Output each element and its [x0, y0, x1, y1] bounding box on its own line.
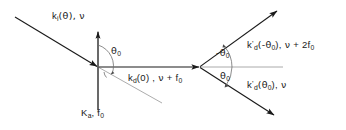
lower-angle-arg: (θ	[258, 79, 268, 90]
first-order-ray-label: kd(0) , ν + f0	[128, 73, 182, 85]
angle-neg-theta-subscript-b: 0	[226, 52, 230, 59]
incident-ray-arrow	[15, 17, 97, 66]
lower-angle-arg-close: ),	[272, 79, 281, 90]
angle-arc-theta0-a-tip	[111, 71, 115, 74]
acoustic-frequency: , f	[91, 107, 100, 118]
acoustic-vector-label: Ka, f0	[81, 108, 104, 120]
acoustic-frequency-subscript: 0	[100, 112, 104, 119]
angle-neg-theta-symbol-b: -θ	[216, 47, 226, 58]
acousto-optic-diffraction-figure: ki(θ), ν Ka, f0 kd(0) , ν + f0 k'd(-θ0),…	[0, 0, 346, 130]
angle-arc-small-a	[104, 72, 107, 78]
angle-label-theta0-b: θ0	[220, 71, 230, 83]
upper-frequency-shift-subscript: 0	[311, 44, 315, 51]
upper-diffracted-ray-label: k'd(-θ0), ν + 2f0	[247, 40, 314, 52]
incident-frequency: ν	[79, 10, 85, 21]
lower-diffracted-ray-label: k'd(θ0), ν	[247, 80, 287, 92]
diffracted-angle-arg: (0) ,	[137, 72, 158, 83]
acoustic-K-symbol: K	[81, 107, 88, 118]
angle-label-neg-theta0-b: -θ0	[216, 48, 230, 60]
lower-frequency: ν	[281, 79, 287, 90]
upper-angle-arg: (-θ	[258, 39, 272, 50]
upper-angle-arg-close: ),	[275, 39, 284, 50]
angle-label-theta0-a: θ0	[111, 46, 121, 58]
diffracted-frequency-shift-subscript: 0	[178, 77, 182, 84]
angle-theta-subscript-a: 0	[117, 50, 121, 57]
angle-theta-subscript-b: 0	[226, 75, 230, 82]
upper-frequency-shift: + 2f	[290, 39, 310, 50]
incident-ray-label: ki(θ), ν	[52, 11, 85, 23]
incident-angle-arg: (θ),	[59, 10, 80, 21]
diffracted-frequency-shift: + f	[164, 72, 179, 83]
